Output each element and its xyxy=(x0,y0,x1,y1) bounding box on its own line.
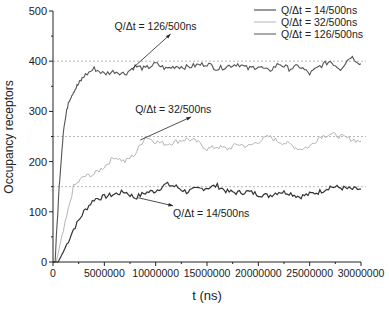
annotation-arrowhead-2 xyxy=(186,117,191,121)
occupancy-line-chart: 0500000010000000150000002000000025000000… xyxy=(0,0,389,311)
y-ticks: 0100200300400500 xyxy=(29,5,53,268)
y-tick-label: 500 xyxy=(29,5,47,17)
x-tick-label: 20000000 xyxy=(235,267,282,279)
reference-lines xyxy=(53,61,366,187)
annotations: Q/Δt = 126/500nsQ/Δt = 32/500nsQ/Δt = 14… xyxy=(115,20,250,219)
annotation-label-3: Q/Δt = 14/500ns xyxy=(173,207,249,219)
y-tick-label: 200 xyxy=(29,156,47,168)
annotation-arrow-1 xyxy=(132,34,171,69)
annotation-label-2: Q/Δt = 32/500ns xyxy=(135,103,211,115)
series-line-1 xyxy=(53,182,361,262)
x-tick-label: 0 xyxy=(50,267,56,279)
legend: Q/Δt = 14/500nsQ/Δt = 32/500nsQ/Δt = 126… xyxy=(254,4,363,40)
x-tick-label: 5000000 xyxy=(84,267,125,279)
series-line-2 xyxy=(53,133,361,263)
annotation-arrow-3 xyxy=(138,198,173,206)
y-tick-label: 300 xyxy=(29,105,47,117)
legend-label-3: Q/Δt = 126/500ns xyxy=(281,28,363,40)
y-tick-label: 0 xyxy=(41,256,47,268)
series-line-3 xyxy=(53,57,361,263)
x-tick-label: 25000000 xyxy=(286,267,333,279)
y-tick-label: 400 xyxy=(29,55,47,67)
x-tick-label: 15000000 xyxy=(184,267,231,279)
x-ticks: 0500000010000000150000002000000025000000… xyxy=(50,262,384,279)
legend-label-2: Q/Δt = 32/500ns xyxy=(281,16,357,28)
x-tick-label: 10000000 xyxy=(132,267,179,279)
x-axis-label: t (ns) xyxy=(192,288,222,303)
y-tick-label: 100 xyxy=(29,206,47,218)
y-axis-label: Occupancy receptors xyxy=(2,80,16,193)
legend-label-1: Q/Δt = 14/500ns xyxy=(281,4,357,16)
series-group xyxy=(53,57,361,263)
annotation-label-1: Q/Δt = 126/500ns xyxy=(115,20,197,32)
x-tick-label: 30000000 xyxy=(338,267,385,279)
